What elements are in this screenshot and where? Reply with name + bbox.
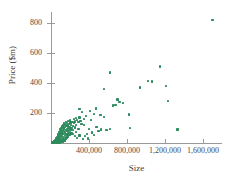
data-point — [99, 114, 101, 116]
data-point — [105, 129, 107, 131]
x-axis-title: Size — [51, 163, 222, 173]
data-point — [93, 134, 95, 136]
scatter-plot: 200400600800 400,000800,0001,200,0001,60… — [0, 0, 225, 182]
data-point — [147, 80, 149, 82]
data-point — [97, 130, 99, 132]
y-axis-title: Price ($m) — [7, 25, 17, 105]
data-point — [76, 137, 78, 139]
data-point — [89, 110, 91, 112]
data-point — [129, 127, 131, 129]
data-point — [77, 128, 79, 130]
data-point — [82, 138, 84, 140]
data-point — [54, 142, 56, 144]
data-point — [176, 128, 178, 130]
data-point — [109, 71, 111, 73]
data-point — [114, 104, 116, 106]
data-point — [211, 19, 213, 21]
data-point — [128, 113, 130, 115]
data-point — [103, 116, 105, 118]
data-point — [122, 102, 124, 104]
data-points-layer — [0, 0, 225, 182]
data-point — [167, 100, 169, 102]
data-point — [86, 133, 88, 135]
data-point — [151, 80, 153, 82]
data-point — [139, 86, 141, 88]
data-point — [78, 134, 80, 136]
data-point — [100, 128, 102, 130]
data-point — [85, 115, 87, 117]
data-point — [95, 126, 97, 128]
data-point — [103, 88, 105, 90]
data-point — [83, 118, 85, 120]
data-point — [90, 119, 92, 121]
data-point — [78, 116, 80, 118]
data-point — [112, 104, 114, 106]
data-point — [83, 124, 85, 126]
data-point — [75, 131, 77, 133]
data-point — [81, 111, 83, 113]
data-point — [93, 113, 95, 115]
data-point — [87, 137, 89, 139]
data-point — [95, 107, 97, 109]
data-point — [159, 65, 161, 67]
data-point — [165, 85, 167, 87]
data-point — [71, 133, 73, 135]
data-point — [88, 128, 90, 130]
data-point — [118, 101, 120, 103]
data-point — [109, 128, 111, 130]
